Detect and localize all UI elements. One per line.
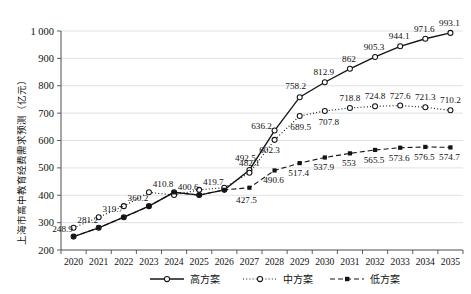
data-point [147, 204, 151, 208]
data-point [172, 190, 176, 194]
legend-label-低方案: 低方案 [370, 273, 400, 285]
y-tick-label: 500 [38, 162, 54, 173]
series-line-高方案 [74, 33, 451, 237]
legend-marker [345, 277, 349, 281]
data-label: 721.3 [415, 92, 436, 102]
data-point [97, 226, 101, 230]
data-point [448, 108, 453, 113]
data-labels: 248.9281.2319.7360.2410.8400.6419.7492.5… [52, 18, 461, 234]
data-label: 727.6 [390, 91, 411, 101]
data-label: 689.5 [290, 122, 311, 132]
x-tick-label: 2029 [290, 256, 309, 267]
data-point [197, 193, 201, 197]
x-tick-label: 2034 [416, 256, 435, 267]
data-point [448, 30, 453, 35]
x-tick-label: 2032 [365, 256, 384, 267]
data-point [272, 128, 277, 133]
y-axis: 1 000900800700600500400300200 [30, 26, 61, 256]
x-tick-label: 2023 [139, 256, 158, 267]
chart-svg: 1 000900800700600500400300200 2020202120… [0, 0, 471, 294]
data-label: 419.7 [203, 177, 224, 187]
data-point [122, 215, 126, 219]
data-point [298, 161, 302, 165]
chart-legend: 高方案中方案低方案 [150, 273, 400, 285]
data-label: 574.7 [439, 152, 460, 162]
data-label: 410.8 [153, 179, 174, 189]
data-point [423, 36, 428, 41]
data-point [272, 168, 276, 172]
legend-label-高方案: 高方案 [190, 273, 220, 285]
series-lines [71, 30, 453, 239]
data-point [398, 146, 402, 150]
data-point [347, 66, 352, 71]
x-tick-label: 2022 [114, 256, 133, 267]
data-point [323, 155, 327, 159]
data-point [348, 151, 352, 155]
data-label: 905.3 [364, 42, 385, 52]
y-tick-label: 600 [38, 135, 54, 146]
data-label: 281.2 [77, 215, 98, 225]
data-point [322, 108, 327, 113]
data-label: 248.9 [52, 224, 73, 234]
data-label: 490.6 [263, 175, 284, 185]
data-label: 602.3 [259, 145, 280, 155]
data-label: 971.6 [414, 24, 435, 34]
data-label: 576.5 [414, 152, 435, 162]
x-tick-label: 2026 [215, 256, 234, 267]
data-label: 636.2 [251, 121, 272, 131]
data-point [272, 137, 277, 142]
data-point [347, 105, 352, 110]
data-label: 553 [342, 158, 356, 168]
x-tick-label: 2021 [89, 256, 108, 267]
data-point [398, 103, 403, 108]
x-tick-label: 2025 [190, 256, 209, 267]
data-label: 573.6 [389, 153, 410, 163]
x-tick-label: 2031 [340, 256, 359, 267]
legend-marker [257, 276, 262, 281]
data-label: 400.6 [178, 182, 199, 192]
data-label: 862 [342, 54, 356, 64]
legend-label-中方案: 中方案 [283, 273, 313, 285]
data-point [71, 235, 75, 239]
y-tick-label: 400 [38, 190, 54, 201]
data-point [222, 188, 226, 192]
data-point [373, 104, 378, 109]
x-tick-label: 2033 [391, 256, 410, 267]
data-point [297, 95, 302, 100]
data-label: 718.8 [340, 93, 361, 103]
data-label: 758.2 [285, 81, 306, 91]
data-label: 707.8 [318, 117, 339, 127]
chart-container: 上海市高中教育经费需求预测（亿元） 1 00090080070060050040… [0, 0, 471, 294]
y-tick-label: 900 [38, 53, 54, 64]
x-tick-label: 2027 [240, 256, 259, 267]
data-label: 517.4 [288, 168, 309, 178]
data-point [322, 80, 327, 85]
data-point [423, 105, 428, 110]
y-tick-label: 200 [38, 245, 54, 256]
data-label: 993.1 [439, 18, 460, 28]
y-tick-label: 700 [38, 108, 54, 119]
y-axis-title: 上海市高中教育经费需求预测（亿元） [14, 75, 28, 245]
x-tick-label: 2024 [164, 256, 183, 267]
x-tick-label: 2020 [64, 256, 83, 267]
data-label: 319.7 [102, 204, 123, 214]
data-label: 944.1 [389, 31, 410, 41]
data-point [297, 113, 302, 118]
data-label: 724.8 [365, 91, 386, 101]
x-tick-label: 2035 [441, 256, 460, 267]
data-point [423, 145, 427, 149]
data-point [247, 186, 251, 190]
data-label: 360.2 [128, 193, 149, 203]
x-tick-label: 2030 [315, 256, 334, 267]
data-label: 565.5 [364, 155, 385, 165]
data-point [448, 145, 452, 149]
data-point [373, 54, 378, 59]
data-point [398, 44, 403, 49]
data-point [373, 148, 377, 152]
data-label: 710.2 [440, 95, 461, 105]
data-point [247, 170, 252, 175]
data-label: 812.9 [313, 67, 334, 77]
data-label: 427.5 [236, 195, 257, 205]
y-tick-label: 1 000 [30, 26, 54, 37]
data-label: 537.9 [313, 162, 334, 172]
